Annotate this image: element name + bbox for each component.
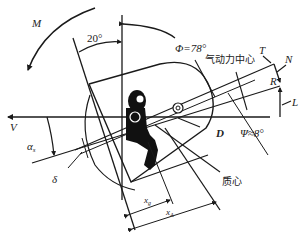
mass-center-label: 质心 bbox=[222, 176, 242, 187]
aero-center-label: 气动力中心 bbox=[205, 53, 255, 65]
velocity-label: V bbox=[10, 121, 18, 133]
aero-center-pointer bbox=[195, 60, 215, 97]
L-pointer bbox=[282, 101, 291, 105]
T-label: T bbox=[259, 44, 266, 56]
xA-dimension bbox=[132, 202, 216, 229]
moment-label: M bbox=[31, 17, 42, 29]
seat-bottom-line bbox=[131, 155, 208, 182]
T-pointer bbox=[263, 56, 271, 63]
delta-pointer bbox=[68, 152, 82, 168]
aero-center-symbol bbox=[173, 103, 183, 113]
xg-label: xg bbox=[143, 195, 151, 206]
L-label: L bbox=[291, 96, 298, 108]
alpha-arc bbox=[47, 117, 54, 155]
D-pointer bbox=[178, 118, 200, 127]
delta-label: δ bbox=[52, 173, 58, 185]
N-pointer bbox=[277, 65, 286, 72]
phi-label: Φ=78° bbox=[175, 42, 207, 54]
tick-line-2 bbox=[228, 93, 268, 155]
xg-extension bbox=[148, 142, 173, 204]
pilot-figure bbox=[126, 90, 158, 170]
angle-20-label: 20° bbox=[87, 32, 102, 44]
aero-force-diagram: 20° Φ=78° V αs δ 气动力中心 T N R bbox=[0, 0, 301, 250]
D-label: D bbox=[215, 127, 224, 139]
phi-arc bbox=[123, 24, 175, 38]
xA-label: xA bbox=[165, 207, 174, 218]
R-label: R bbox=[269, 75, 277, 87]
psi-label: Ψ≈8° bbox=[240, 127, 264, 139]
mass-center-pointer bbox=[155, 125, 220, 172]
alpha-label: αs bbox=[27, 140, 36, 154]
seat-front-line bbox=[165, 128, 220, 210]
N-label: N bbox=[284, 53, 293, 65]
